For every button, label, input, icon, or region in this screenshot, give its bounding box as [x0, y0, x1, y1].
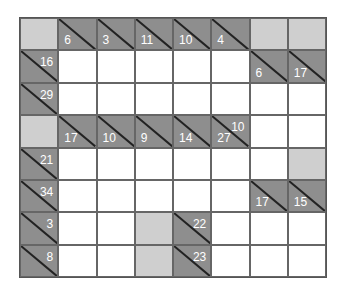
blocked-cell — [135, 212, 173, 244]
clue-cell: 22 — [173, 212, 211, 244]
across-clue: 3 — [47, 218, 54, 230]
clue-cell: 14 — [173, 115, 211, 147]
down-clue: 10 — [103, 132, 116, 144]
clue-cell: 23 — [173, 245, 211, 277]
entry-cell[interactable] — [250, 245, 288, 277]
entry-cell[interactable] — [211, 148, 249, 180]
kakuro-grid: 631110416617291710914271021341715322823 — [19, 17, 327, 278]
entry-cell[interactable] — [58, 148, 96, 180]
entry-cell[interactable] — [135, 83, 173, 115]
entry-cell[interactable] — [211, 83, 249, 115]
across-clue: 8 — [47, 251, 54, 263]
clue-cell: 2710 — [211, 115, 249, 147]
entry-cell[interactable] — [288, 83, 326, 115]
entry-cell[interactable] — [97, 180, 135, 212]
clue-cell: 4 — [211, 18, 249, 50]
down-clue: 9 — [141, 132, 148, 144]
across-clue: 23 — [193, 251, 206, 263]
clue-cell: 11 — [135, 18, 173, 50]
down-clue: 10 — [179, 34, 192, 46]
clue-cell: 17 — [288, 50, 326, 82]
clue-cell: 10 — [97, 115, 135, 147]
clue-cell: 34 — [20, 180, 58, 212]
clue-cell: 3 — [97, 18, 135, 50]
entry-cell[interactable] — [211, 180, 249, 212]
entry-cell[interactable] — [58, 83, 96, 115]
entry-cell[interactable] — [58, 180, 96, 212]
blocked-cell — [250, 18, 288, 50]
clue-cell: 3 — [20, 212, 58, 244]
entry-cell[interactable] — [135, 148, 173, 180]
blocked-cell — [135, 245, 173, 277]
entry-cell[interactable] — [58, 50, 96, 82]
down-clue: 17 — [294, 67, 307, 79]
entry-cell[interactable] — [173, 180, 211, 212]
across-clue: 22 — [193, 218, 206, 230]
entry-cell[interactable] — [58, 245, 96, 277]
blocked-cell — [20, 115, 58, 147]
across-clue: 16 — [40, 56, 53, 68]
entry-cell[interactable] — [173, 50, 211, 82]
entry-cell[interactable] — [97, 245, 135, 277]
entry-cell[interactable] — [97, 148, 135, 180]
clue-cell: 6 — [250, 50, 288, 82]
entry-cell[interactable] — [173, 83, 211, 115]
clue-cell: 15 — [288, 180, 326, 212]
entry-cell[interactable] — [211, 50, 249, 82]
blocked-cell — [288, 18, 326, 50]
clue-cell: 8 — [20, 245, 58, 277]
entry-cell[interactable] — [288, 212, 326, 244]
clue-cell: 10 — [173, 18, 211, 50]
down-clue: 3 — [103, 34, 110, 46]
entry-cell[interactable] — [173, 148, 211, 180]
down-clue: 6 — [64, 34, 71, 46]
down-clue: 17 — [256, 196, 269, 208]
blocked-cell — [288, 148, 326, 180]
entry-cell[interactable] — [211, 212, 249, 244]
clue-cell: 29 — [20, 83, 58, 115]
entry-cell[interactable] — [97, 83, 135, 115]
across-clue: 21 — [40, 154, 53, 166]
blocked-cell — [20, 18, 58, 50]
entry-cell[interactable] — [250, 212, 288, 244]
entry-cell[interactable] — [250, 148, 288, 180]
down-clue: 14 — [179, 132, 192, 144]
down-clue: 15 — [294, 196, 307, 208]
entry-cell[interactable] — [58, 212, 96, 244]
entry-cell[interactable] — [250, 83, 288, 115]
across-clue: 34 — [40, 186, 53, 198]
entry-cell[interactable] — [288, 245, 326, 277]
entry-cell[interactable] — [135, 50, 173, 82]
entry-cell[interactable] — [135, 180, 173, 212]
clue-cell: 17 — [250, 180, 288, 212]
down-clue: 27 — [217, 132, 230, 144]
clue-cell: 6 — [58, 18, 96, 50]
entry-cell[interactable] — [250, 115, 288, 147]
clue-cell: 17 — [58, 115, 96, 147]
clue-cell: 16 — [20, 50, 58, 82]
entry-cell[interactable] — [97, 50, 135, 82]
down-clue: 6 — [256, 67, 263, 79]
clue-cell: 21 — [20, 148, 58, 180]
entry-cell[interactable] — [97, 212, 135, 244]
across-clue: 10 — [231, 121, 244, 133]
entry-cell[interactable] — [211, 245, 249, 277]
clue-cell: 9 — [135, 115, 173, 147]
entry-cell[interactable] — [288, 115, 326, 147]
across-clue: 29 — [40, 89, 53, 101]
down-clue: 11 — [141, 34, 153, 46]
down-clue: 17 — [64, 132, 77, 144]
down-clue: 4 — [217, 34, 224, 46]
